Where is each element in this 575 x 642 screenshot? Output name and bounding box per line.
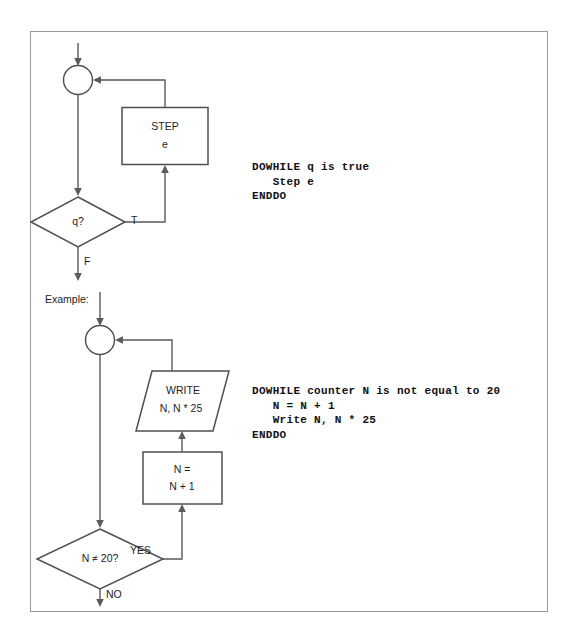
generic-process-line2: e xyxy=(162,138,168,150)
generic-process-box xyxy=(122,108,208,165)
flowchart-canvas: STEP e q? T F Exam xyxy=(0,0,575,642)
example-false-label: NO xyxy=(106,588,122,600)
generic-loop-junction-circle xyxy=(64,66,93,95)
page-root: STEP e q? T F Exam xyxy=(0,0,575,642)
example-output-line2: N, N * 25 xyxy=(160,402,203,414)
arrowhead-icon xyxy=(178,431,186,439)
generic-true-label: T xyxy=(131,214,138,226)
arrowhead-icon xyxy=(161,165,169,173)
arrowhead-icon xyxy=(96,599,104,607)
generic-decision-text: q? xyxy=(72,215,84,227)
example-loop-junction-circle xyxy=(86,326,115,355)
example-true-branch xyxy=(163,504,186,559)
generic-circle-to-decision-arrow xyxy=(74,95,82,197)
arrowhead-icon xyxy=(74,273,82,281)
arrowhead-icon xyxy=(178,504,186,512)
generic-false-label: F xyxy=(84,255,90,267)
arrowhead-icon xyxy=(96,318,104,326)
generic-pseudocode-block: DOWHILE q is true Step e ENDDO xyxy=(252,160,369,204)
example-flowchart-group: Example: WRITE N, N * 25 xyxy=(37,292,229,607)
example-process-box xyxy=(143,452,222,504)
generic-false-branch xyxy=(74,247,82,281)
example-loopback-arrow xyxy=(115,336,172,371)
example-true-label: YES xyxy=(130,544,151,556)
generic-entry-arrow xyxy=(74,43,82,66)
arrowhead-icon xyxy=(93,76,101,84)
example-output-line1: WRITE xyxy=(166,384,200,396)
example-process-line1: N = xyxy=(174,463,191,475)
example-process-to-output-arrow xyxy=(178,431,186,452)
generic-process-line1: STEP xyxy=(151,120,178,132)
example-pseudocode-block: DOWHILE counter N is not equal to 20 N =… xyxy=(252,384,500,442)
arrowhead-icon xyxy=(115,336,123,344)
generic-loopback-arrow xyxy=(93,76,165,107)
example-false-branch xyxy=(96,589,104,607)
example-circle-to-decision-arrow xyxy=(96,355,104,529)
example-decision-text: N ≠ 20? xyxy=(82,552,119,564)
arrowhead-icon xyxy=(74,188,82,196)
generic-flowchart-group: STEP e q? T F xyxy=(31,43,208,281)
example-caption: Example: xyxy=(45,293,89,305)
example-entry-arrow xyxy=(96,292,104,326)
arrowhead-icon xyxy=(96,520,104,528)
example-process-line2: N + 1 xyxy=(169,480,195,492)
